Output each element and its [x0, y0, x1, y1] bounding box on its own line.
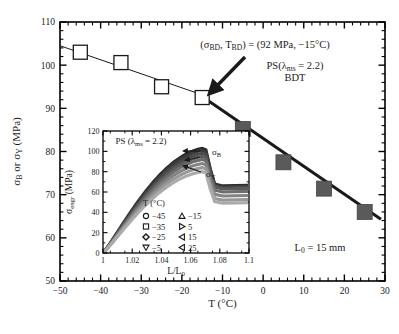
y-tick-label: 50: [46, 276, 56, 286]
figure-root: −50−40−30−20−1001020305060708090100110T …: [0, 0, 399, 334]
x-tick-label: −40: [93, 286, 108, 296]
y-tick-label: 90: [46, 104, 56, 114]
x-tick-label: 30: [380, 286, 390, 296]
inset-y-tick-label: 100: [88, 147, 100, 156]
inset-y-tick-label: 0: [96, 249, 100, 258]
x-axis-label: T (°C): [208, 297, 237, 310]
inset-x-tick-label: 1.04: [154, 256, 168, 265]
x-tick-label: 20: [340, 286, 350, 296]
y-tick-label: 110: [41, 17, 55, 27]
data-point-filled-square: [276, 155, 291, 170]
data-point-open-square: [155, 80, 169, 94]
legend-label: 25: [188, 243, 197, 253]
data-point-filled-square: [317, 181, 332, 196]
x-tick-label: −10: [215, 286, 230, 296]
material-label-line2: BDT: [285, 72, 307, 83]
inset-y-tick-label: 120: [88, 127, 100, 136]
x-tick-label: 0: [261, 286, 266, 296]
legend-label: −45: [152, 211, 165, 221]
data-point-open-square: [114, 56, 128, 70]
inset-y-tick-label: 20: [92, 229, 100, 238]
x-tick-label: 10: [299, 286, 309, 296]
y-tick-label: 100: [41, 61, 56, 71]
inset-x-tick-label: 1.08: [213, 256, 227, 265]
chart-canvas: −50−40−30−20−1001020305060708090100110T …: [0, 0, 399, 334]
legend-label: −35: [152, 222, 165, 232]
data-point-open-square: [73, 45, 87, 59]
inset-y-tick-label: 40: [92, 208, 100, 217]
y-tick-label: 60: [46, 233, 56, 243]
x-tick-label: −50: [53, 286, 68, 296]
data-point-filled-square: [357, 204, 372, 219]
legend-label: −5: [152, 243, 161, 253]
y-tick-label: 70: [46, 190, 56, 200]
inset-x-tick-label: 1: [101, 256, 105, 265]
legend-label: −25: [152, 232, 165, 242]
x-tick-label: −30: [134, 286, 149, 296]
legend-label: 15: [188, 232, 197, 242]
inset-legend-title: T (°C): [143, 198, 165, 208]
inset-x-tick-label: 1.1: [244, 256, 254, 265]
legend-label: −15: [188, 211, 201, 221]
inset-y-tick-label: 80: [92, 168, 100, 177]
data-point-open-square: [195, 91, 209, 105]
x-tick-label: −20: [174, 286, 189, 296]
inset-x-tick-label: 1.02: [125, 256, 139, 265]
legend-label: 5: [188, 222, 192, 232]
inset-x-tick-label: 1.06: [184, 256, 198, 265]
y-axis-label: σB or σY (MPa): [10, 117, 24, 186]
inset-y-tick-label: 60: [92, 188, 100, 197]
y-tick-label: 80: [46, 147, 56, 157]
